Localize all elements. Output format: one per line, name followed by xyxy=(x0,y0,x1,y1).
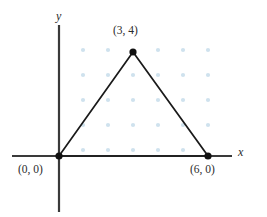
grid-dot xyxy=(181,73,185,77)
grid-dot xyxy=(81,73,85,77)
grid-dot xyxy=(206,98,210,102)
grid-dot xyxy=(106,73,110,77)
grid-dot xyxy=(156,48,160,52)
grid-dot xyxy=(206,73,210,77)
vertex-label-apex: (3, 4) xyxy=(113,25,138,37)
grid-dot xyxy=(181,48,185,52)
vertex-point-apex xyxy=(129,48,136,55)
grid-dot xyxy=(106,123,110,127)
grid-dot-row-y3 xyxy=(81,73,210,77)
grid-dot xyxy=(206,48,210,52)
vertex-label-right: (6, 0) xyxy=(190,164,215,176)
grid-dot-row-y1 xyxy=(81,123,210,127)
grid-dot xyxy=(156,73,160,77)
grid-dot xyxy=(106,148,110,152)
vertex-label-origin: (0, 0) xyxy=(18,164,43,176)
x-axis-label: x xyxy=(238,146,243,158)
grid-dot xyxy=(131,98,135,102)
vertex-point-origin xyxy=(55,152,62,159)
grid-dot xyxy=(131,123,135,127)
grid-dot-layer xyxy=(81,48,210,152)
grid-dot xyxy=(181,98,185,102)
grid-dot xyxy=(156,148,160,152)
grid-dot xyxy=(131,73,135,77)
grid-dot xyxy=(81,148,85,152)
grid-dot-row-y0 xyxy=(81,148,185,152)
grid-dot xyxy=(181,148,185,152)
coordinate-plane-figure: x y (3, 4) (0, 0) (6, 0) xyxy=(0,0,267,217)
grid-dot-row-y4 xyxy=(81,48,210,52)
grid-dot xyxy=(206,123,210,127)
grid-dot xyxy=(81,98,85,102)
y-axis-label: y xyxy=(56,10,61,22)
grid-dot xyxy=(81,48,85,52)
grid-dot xyxy=(156,98,160,102)
triangle-shape xyxy=(59,52,208,156)
grid-dot xyxy=(106,98,110,102)
grid-dot xyxy=(156,123,160,127)
grid-dot xyxy=(106,48,110,52)
grid-dot xyxy=(131,148,135,152)
vertex-point-right xyxy=(204,152,211,159)
